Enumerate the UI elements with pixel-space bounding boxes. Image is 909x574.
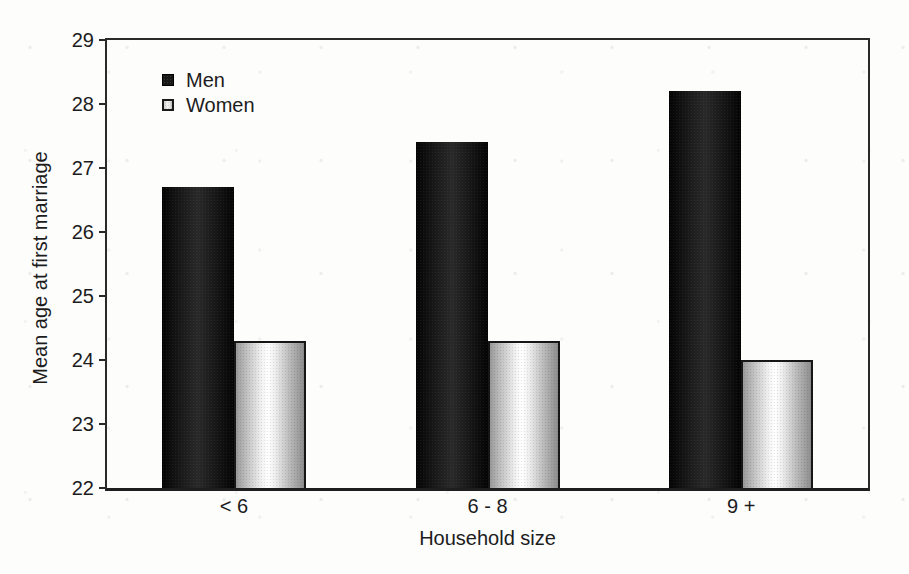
y-tick-label: 26: [48, 221, 94, 243]
y-tick-mark: [99, 167, 106, 169]
y-tick-label: 22: [48, 477, 94, 499]
y-tick-label: 23: [48, 413, 94, 435]
legend-men-label: Men: [186, 69, 225, 92]
men-swatch-icon: [162, 74, 174, 86]
y-tick-label: 24: [48, 349, 94, 371]
y-tick-mark: [99, 103, 106, 105]
y-tick-mark: [99, 423, 106, 425]
legend: Men Women: [162, 68, 255, 118]
legend-item-men: Men: [162, 68, 255, 92]
bar-men-group3: [669, 91, 741, 488]
x-tick-label: 9 +: [681, 494, 801, 518]
women-swatch-icon: [162, 99, 174, 111]
chart-figure: Mean age at first marriage 2223242526272…: [0, 0, 909, 574]
y-tick-mark: [99, 359, 106, 361]
x-axis-title: Household size: [107, 526, 868, 550]
y-tick-mark: [99, 295, 106, 297]
bar-men-group2: [416, 142, 488, 488]
legend-item-women: Women: [162, 93, 255, 117]
bar-men-group1: [162, 187, 234, 488]
y-tick-label: 27: [48, 157, 94, 179]
bar-women-group1: [234, 341, 306, 488]
y-tick-label: 28: [48, 93, 94, 115]
x-tick-label: < 6: [174, 494, 294, 518]
y-tick-label: 29: [48, 29, 94, 51]
y-tick-mark: [99, 39, 106, 41]
y-tick-mark: [99, 231, 106, 233]
y-tick-label: 25: [48, 285, 94, 307]
y-tick-mark: [99, 487, 106, 489]
legend-women-label: Women: [186, 94, 255, 117]
x-tick-label: 6 - 8: [428, 494, 548, 518]
bar-women-group3: [741, 360, 813, 488]
bar-women-group2: [488, 341, 560, 488]
